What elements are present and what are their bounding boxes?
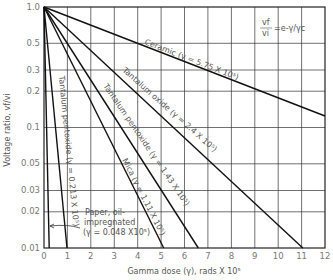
y-tick-labels: 1.0 0.5 0.3 0.2 0.1 0.05 0.03 0.02 0.01 — [21, 2, 40, 253]
svg-text:(γ = 0.048 X10⁵): (γ = 0.048 X10⁵) — [83, 228, 150, 237]
svg-text:vf: vf — [262, 18, 270, 27]
chart: 1.0 0.5 0.3 0.2 0.1 0.05 0.03 0.02 0.01 … — [0, 0, 333, 280]
svg-text:Paper, oil-: Paper, oil- — [85, 208, 125, 217]
svg-text:vi: vi — [262, 29, 269, 38]
formula-annotation: vf vi =e-γ/γc — [260, 18, 305, 38]
svg-text:10: 10 — [273, 251, 284, 261]
svg-text:0.1: 0.1 — [26, 122, 40, 132]
svg-text:7: 7 — [205, 251, 210, 261]
svg-text:1.0: 1.0 — [26, 2, 40, 12]
svg-text:0.3: 0.3 — [26, 65, 40, 75]
svg-text:0.01: 0.01 — [21, 243, 40, 253]
label-tantalum-pentoxide-0213: Tantalum pentoxide (γ = 0.213 X 10⁵) — [57, 74, 81, 226]
svg-text:4: 4 — [135, 251, 140, 261]
y-axis-label: Voltage ratio, vf/vi — [3, 93, 12, 166]
svg-text:11: 11 — [296, 251, 307, 261]
svg-text:12: 12 — [320, 251, 331, 261]
svg-text:=e-γ/γc: =e-γ/γc — [274, 24, 305, 33]
x-axis-label: Gamma dose (γ), rads X 10⁵ — [127, 267, 240, 276]
svg-text:3: 3 — [112, 251, 117, 261]
svg-text:0.05: 0.05 — [21, 158, 40, 168]
svg-text:0.02: 0.02 — [21, 206, 40, 216]
svg-text:6: 6 — [182, 251, 187, 261]
svg-text:impregnated: impregnated — [84, 218, 135, 227]
label-tantalum-oxide: Tantalum oxide (γ = 2.4 X 10⁵) — [120, 65, 219, 154]
x-tick-labels: 0 1 2 3 4 5 6 7 8 9 10 11 12 — [41, 251, 330, 261]
svg-text:0.03: 0.03 — [21, 185, 40, 195]
svg-text:2: 2 — [88, 251, 93, 261]
svg-text:0.2: 0.2 — [26, 86, 40, 96]
svg-text:9: 9 — [252, 251, 257, 261]
svg-text:8: 8 — [229, 251, 234, 261]
svg-text:0: 0 — [41, 251, 46, 261]
svg-text:0.5: 0.5 — [26, 38, 40, 48]
svg-text:1: 1 — [65, 251, 70, 261]
svg-text:5: 5 — [158, 251, 163, 261]
label-ceramic: Ceramic (γ = 5.75 X 10⁵) — [143, 37, 240, 82]
